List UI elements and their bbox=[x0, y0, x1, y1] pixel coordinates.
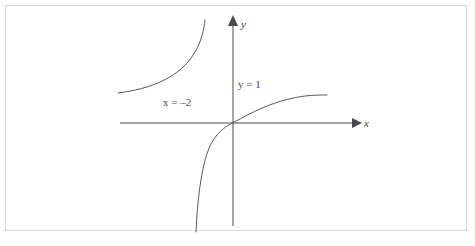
horizontal-asymptote-label: y = 1 bbox=[238, 79, 261, 90]
axes-group bbox=[120, 15, 362, 226]
vertical-asymptote-label: x = –2 bbox=[163, 97, 191, 108]
curve-left-upper-branch bbox=[118, 20, 205, 93]
plot-canvas bbox=[0, 0, 475, 246]
figure-root: x = –2 y = 1 x y bbox=[0, 0, 475, 246]
y-axis-label: y bbox=[241, 19, 246, 30]
curve-group bbox=[118, 20, 327, 232]
y-axis-arrowhead bbox=[228, 15, 238, 26]
x-axis-label: x bbox=[364, 118, 369, 129]
curve-right-lower-branch bbox=[196, 95, 327, 232]
x-axis-arrowhead bbox=[352, 118, 362, 128]
